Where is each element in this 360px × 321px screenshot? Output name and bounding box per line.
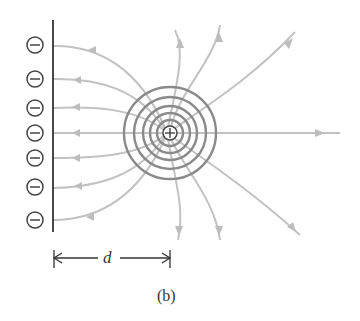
distance-dimension (54, 250, 170, 268)
negative-charge (27, 150, 43, 166)
arrow-up-icon (176, 38, 184, 48)
arrow-down-icon (175, 226, 183, 236)
distance-label: d (103, 248, 112, 267)
negative-charge (27, 125, 43, 141)
negative-charges (27, 37, 43, 228)
arrow-left-icon (72, 154, 80, 162)
negative-charge (27, 212, 43, 228)
arrow-left-icon (72, 129, 80, 137)
field-line (174, 32, 295, 129)
field-diagram: d (b) (0, 0, 360, 321)
negative-charge (27, 37, 43, 53)
negative-charge (27, 71, 43, 87)
arrow-left-icon (72, 103, 80, 111)
arrow-left-icon (73, 76, 81, 84)
negative-charge (27, 100, 43, 116)
arrow-down-icon (215, 226, 223, 236)
figure-caption: (b) (157, 287, 176, 305)
positive-charge (163, 126, 177, 140)
field-line (53, 108, 165, 131)
field-line (174, 138, 300, 235)
field-line (53, 135, 165, 158)
negative-charge (27, 179, 43, 195)
arrow-left-icon (74, 182, 82, 190)
arrow-right-icon (315, 129, 325, 137)
